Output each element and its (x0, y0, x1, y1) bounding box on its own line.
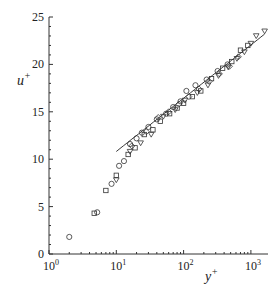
data-point-triangle-down (148, 132, 154, 137)
x-tick-label: 103 (245, 258, 261, 273)
x-axis-label: y+ (203, 266, 218, 284)
data-point-square (133, 146, 137, 150)
data-point-triangle-down (253, 34, 259, 39)
y-tick-label: 10 (32, 152, 44, 166)
data-point-circle (121, 158, 126, 163)
x-tick-label: 102 (178, 258, 194, 273)
y-axis-label: u+ (17, 70, 31, 88)
data-points (67, 29, 268, 240)
data-point-circle (184, 88, 189, 93)
data-point-circle (109, 181, 114, 186)
data-point-square (114, 173, 118, 177)
data-point-circle (193, 83, 198, 88)
data-point-circle (134, 136, 139, 141)
data-point-square (151, 128, 155, 132)
data-point-triangle-down (262, 29, 268, 34)
data-point-circle (127, 141, 132, 146)
data-point-triangle-down (114, 178, 120, 183)
y-tick-label: 15 (32, 105, 44, 119)
y-tick-label: 5 (38, 200, 44, 214)
tick-labels: 0510152025100101102103 (32, 10, 261, 273)
y-tick-label: 25 (32, 10, 44, 24)
x-tick-label: 101 (110, 258, 126, 273)
data-point-circle (95, 210, 100, 215)
data-point-circle (116, 163, 121, 168)
data-point-triangle-down (127, 149, 133, 154)
y-axis-label-text: u (17, 73, 24, 88)
axes (49, 17, 268, 254)
data-point-triangle-down (161, 114, 167, 119)
data-point-square (104, 188, 108, 192)
data-point-circle (67, 234, 72, 239)
y-tick-label: 20 (32, 57, 44, 71)
x-tick-label: 100 (43, 258, 59, 273)
chart-plot: 0510152025100101102103 u+ y+ (0, 0, 280, 299)
data-point-triangle-down (138, 141, 144, 146)
